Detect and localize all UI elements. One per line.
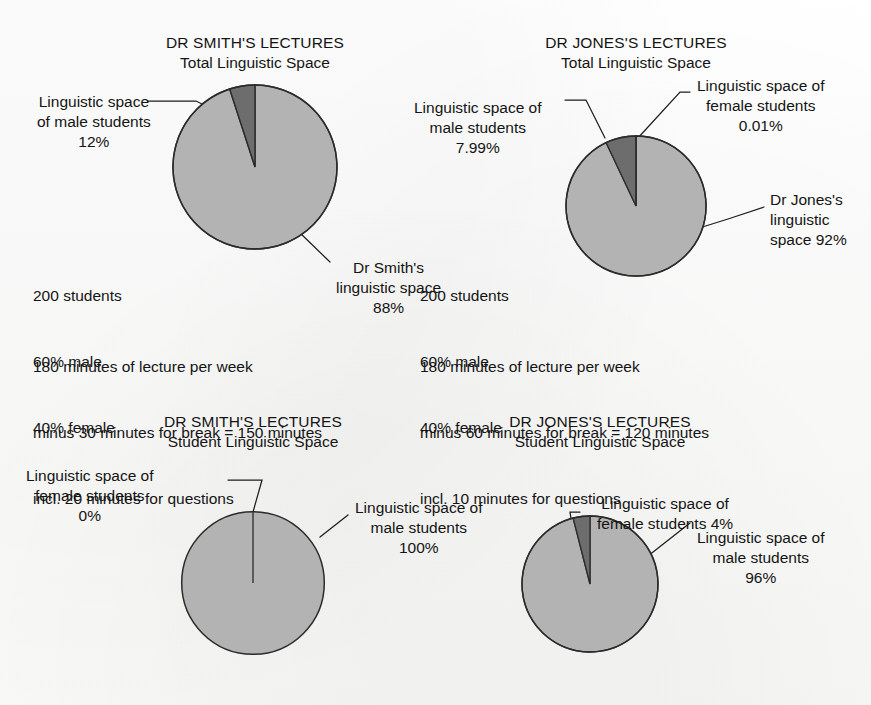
- pie-smith-total: [173, 85, 337, 249]
- chart-title-line1: DR JONES'S LECTURES: [509, 412, 691, 432]
- callout-line1: Linguistic space of: [597, 494, 733, 514]
- callout-line1: Linguistic space: [37, 92, 151, 112]
- leader-jones-female: [637, 92, 690, 139]
- callout-line3: 100%: [355, 538, 483, 558]
- callout-line2: female students: [697, 96, 825, 116]
- chart-title-smith-total: DR SMITH'S LECTURES Total Linguistic Spa…: [166, 33, 344, 73]
- callout-jones-male: Linguistic space of male students 7.99%: [414, 98, 542, 158]
- callout-line1: Linguistic space of: [697, 76, 825, 96]
- callout-line3: 12%: [37, 132, 151, 152]
- timing-line1: 180 minutes of lecture per week: [420, 356, 709, 378]
- pie-jones-total: [566, 136, 706, 276]
- callout-smith-student-male: Linguistic space of male students 100%: [355, 498, 483, 558]
- callout-line3: 7.99%: [414, 138, 542, 158]
- chart-title-smith-student: DR SMITH'S LECTURES Student Linguistic S…: [164, 412, 342, 452]
- callout-line1: Linguistic space of: [26, 466, 154, 486]
- chart-title-line2: Student Linguistic Space: [509, 432, 691, 452]
- callout-jones-student-male: Linguistic space of male students 96%: [697, 528, 825, 588]
- callout-line1: Linguistic space of: [414, 98, 542, 118]
- callout-line2: male students: [697, 548, 825, 568]
- pie-smith-student: [181, 511, 325, 655]
- chart-title-jones-total: DR JONES'S LECTURES Total Linguistic Spa…: [545, 33, 727, 73]
- timing-line1: 180 minutes of lecture per week: [33, 356, 322, 378]
- callout-line1: Linguistic space of: [697, 528, 825, 548]
- callout-line3: space 92%: [770, 230, 847, 250]
- callout-line2: linguistic: [770, 210, 847, 230]
- chart-title-jones-student: DR JONES'S LECTURES Student Linguistic S…: [509, 412, 691, 452]
- callout-smith-male: Linguistic space of male students 12%: [37, 92, 151, 152]
- chart-title-line1: DR JONES'S LECTURES: [545, 33, 727, 53]
- stats-line1: 200 students: [420, 285, 509, 307]
- callout-line2: male students: [355, 518, 483, 538]
- callout-line3: 0.01%: [697, 116, 825, 136]
- callout-jones-female: Linguistic space of female students 0.01…: [697, 76, 825, 136]
- chart-title-line1: DR SMITH'S LECTURES: [166, 33, 344, 53]
- callout-line2: male students: [414, 118, 542, 138]
- callout-smith-student-female: Linguistic space of female students 0%: [26, 466, 154, 526]
- callout-line1: Linguistic space of: [355, 498, 483, 518]
- leader-jones-male: [565, 100, 605, 138]
- callout-line1: Dr Jones's: [770, 190, 847, 210]
- callout-line3: 96%: [697, 568, 825, 588]
- chart-title-line2: Student Linguistic Space: [164, 432, 342, 452]
- callout-jones-lecturer: Dr Jones's linguistic space 92%: [770, 190, 847, 250]
- callout-line2: of male students: [37, 112, 151, 132]
- stats-line1: 200 students: [33, 285, 122, 307]
- chart-title-line2: Total Linguistic Space: [545, 53, 727, 73]
- chart-title-line1: DR SMITH'S LECTURES: [164, 412, 342, 432]
- figure-page: DR SMITH'S LECTURES Total Linguistic Spa…: [0, 0, 871, 705]
- pie-jones-student: [522, 516, 658, 652]
- callout-line3: 0%: [26, 506, 154, 526]
- chart-title-line2: Total Linguistic Space: [166, 53, 344, 73]
- callout-line2: female students: [26, 486, 154, 506]
